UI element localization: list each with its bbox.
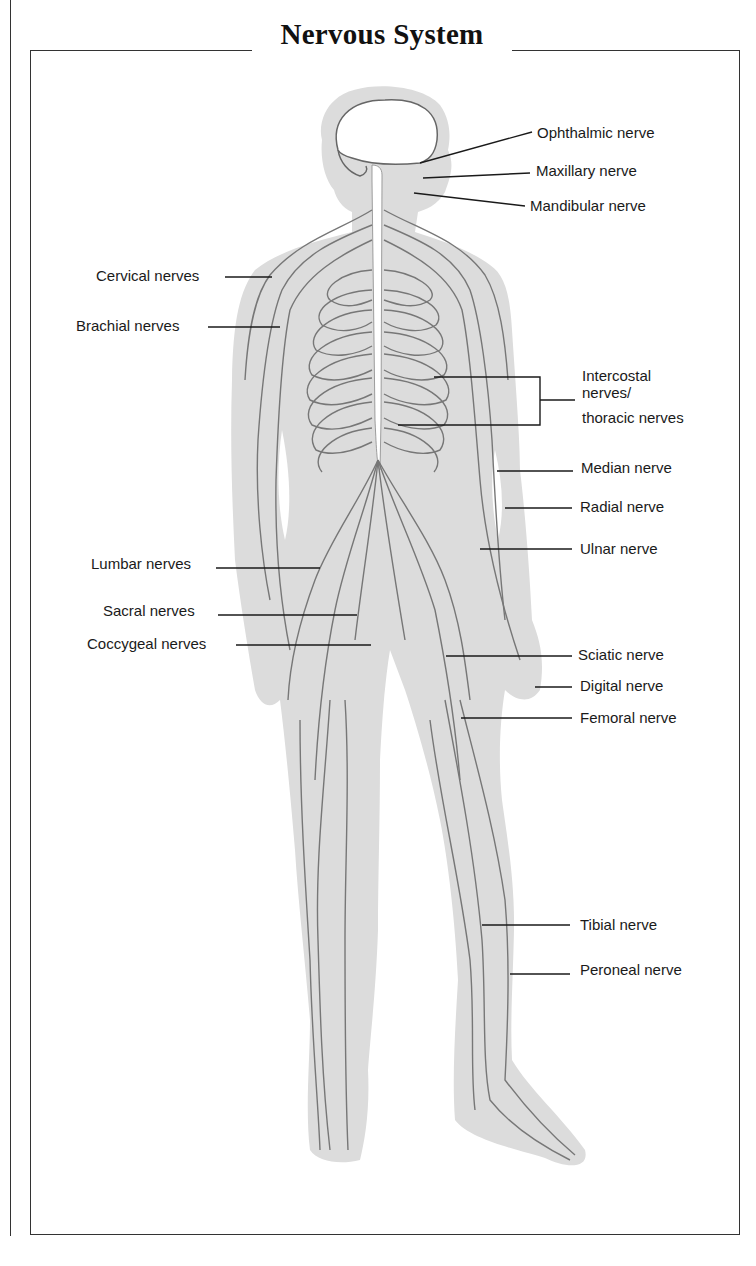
label-peroneal-nerve: Peroneal nerve [580,961,682,978]
leg-gap [384,690,405,880]
human-body-figure [0,0,756,1266]
label-ophthalmic-nerve: Ophthalmic nerve [537,124,655,141]
label-coccygeal-nerves: Coccygeal nerves [87,635,206,652]
label-brachial-nerves: Brachial nerves [76,317,179,334]
label-sciatic-nerve: Sciatic nerve [578,646,664,663]
label-tibial-nerve: Tibial nerve [580,916,657,933]
label-sacral-nerves: Sacral nerves [103,602,195,619]
label-ulnar-nerve: Ulnar nerve [580,540,658,557]
label-radial-nerve: Radial nerve [580,498,664,515]
label-median-nerve: Median nerve [581,459,672,476]
label-lumbar-nerves: Lumbar nerves [91,555,191,572]
label-maxillary-nerve: Maxillary nerve [536,162,637,179]
label-intercostal-line2: nerves/ [582,384,631,401]
body-silhouette [231,86,585,1165]
label-mandibular-nerve: Mandibular nerve [530,197,646,214]
label-intercostal-line3: thoracic nerves [582,409,684,426]
label-intercostal-line1: Intercostal [582,367,651,384]
label-digital-nerve: Digital nerve [580,677,663,694]
label-femoral-nerve: Femoral nerve [580,709,677,726]
label-cervical-nerves: Cervical nerves [96,267,199,284]
